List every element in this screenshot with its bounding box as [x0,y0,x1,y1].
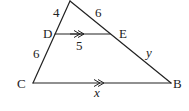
length-label-AE: 6 [95,5,102,20]
length-label-CB: x [93,85,100,100]
length-label-DC: 6 [33,46,40,61]
side-AB [70,1,171,83]
side-AC [33,1,70,83]
length-label-EB: y [144,45,152,60]
triangle-diagram: D E C B 4 6 5 6 y x [0,0,189,111]
vertex-label-B: B [173,76,182,91]
vertex-label-C: C [17,76,26,91]
length-label-DE: 5 [76,38,83,53]
parallel-mark-DE-icon [70,31,84,38]
length-label-AD: 4 [53,5,60,20]
vertex-label-D: D [43,26,52,41]
vertex-label-E: E [119,26,127,41]
